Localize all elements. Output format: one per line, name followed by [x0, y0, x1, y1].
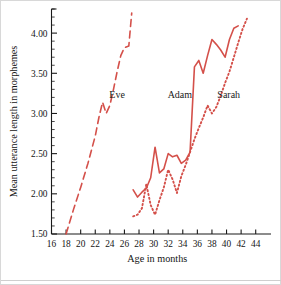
x-tick-label: 40 — [222, 239, 232, 249]
chart-figure: 161820222426283032343638404244 1.502.002… — [0, 0, 281, 285]
x-tick-label: 20 — [76, 239, 86, 249]
series-label-adam: Adam — [168, 89, 193, 100]
series-line-adam — [133, 26, 238, 197]
series-label-sarah: Sarah — [217, 89, 240, 100]
x-tick-label: 36 — [193, 239, 203, 249]
series-labels: EveAdamSarah — [109, 89, 240, 100]
x-tick-label: 34 — [178, 239, 188, 249]
x-tick-label: 42 — [236, 239, 246, 249]
y-tick-label: 2.00 — [31, 189, 48, 199]
x-tick-labels: 161820222426283032343638404244 — [47, 239, 261, 249]
x-tick-label: 38 — [207, 239, 217, 249]
x-tick-label: 24 — [105, 239, 115, 249]
series-label-eve: Eve — [109, 89, 125, 100]
data-series — [66, 13, 247, 234]
x-tick-label: 26 — [120, 239, 130, 249]
y-tick-label: 3.00 — [31, 109, 48, 119]
x-tick-label: 16 — [47, 239, 57, 249]
axes — [52, 9, 272, 234]
x-tick-label: 44 — [251, 239, 261, 249]
y-tick-labels: 1.502.002.503.003.504.00 — [31, 29, 48, 240]
tick-marks — [52, 9, 256, 234]
x-tick-label: 18 — [61, 239, 71, 249]
y-tick-label: 1.50 — [31, 229, 48, 239]
x-tick-label: 30 — [149, 239, 159, 249]
bottom-divider — [1, 280, 281, 281]
y-tick-label: 2.50 — [31, 149, 48, 159]
x-tick-label: 32 — [164, 239, 174, 249]
series-line-sarah — [133, 19, 247, 217]
x-axis-title: Age in months — [127, 253, 187, 264]
y-tick-label: 3.50 — [31, 69, 48, 79]
x-tick-label: 28 — [134, 239, 144, 249]
y-tick-label: 4.00 — [31, 29, 48, 39]
y-axis-title: Mean utterance length in morphemes — [8, 46, 19, 198]
x-tick-label: 22 — [91, 239, 101, 249]
series-line-eve — [66, 13, 132, 234]
line-chart: 161820222426283032343638404244 1.502.002… — [1, 1, 281, 285]
